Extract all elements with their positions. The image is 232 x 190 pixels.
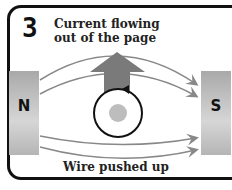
diagram-caption: Wire pushed up [0,160,232,174]
field-line [40,147,196,158]
current-out-dot-icon [109,104,127,122]
